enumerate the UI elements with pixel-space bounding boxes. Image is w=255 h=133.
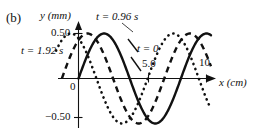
leader-line-t096: [122, 23, 133, 32]
y-tick-label-positive: 0.50: [51, 27, 70, 38]
leader-line-five: [131, 57, 141, 71]
origin-label: 0: [70, 81, 76, 92]
x-axis-title: x (cm): [219, 77, 247, 88]
wave-snapshot-figure: (b) y (mm) 0.50 −0.50 0 5.0 10 x (cm) t …: [0, 0, 255, 133]
y-axis-title: y (mm): [40, 10, 71, 21]
x-tick-label-five: 5.0: [142, 58, 156, 69]
y-tick-label-negative: −0.50: [45, 111, 70, 122]
x-tick-label-ten: 10: [199, 57, 210, 68]
curve-label-t-0: t = 0: [137, 43, 158, 54]
x-axis-arrowhead: [207, 75, 216, 82]
y-axis-arrowhead: [75, 21, 82, 30]
curve-label-t-0-96s: t = 0.96 s: [96, 11, 138, 22]
curve-label-t-1-92s: t = 1.92 s: [21, 45, 63, 56]
panel-label: (b): [6, 11, 21, 24]
